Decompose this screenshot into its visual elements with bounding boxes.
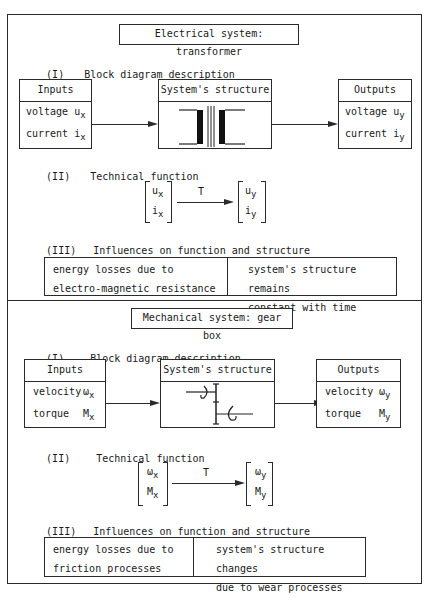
- flow-arrow: [275, 403, 315, 404]
- influence-cell: energy losses due tofriction processes: [45, 538, 193, 576]
- outputs-block: Outputs velocityωy torqueMy: [316, 359, 401, 428]
- transformer-icon: [159, 102, 271, 148]
- function-arrow: [172, 483, 236, 484]
- transfer-operator: T: [198, 186, 204, 197]
- section-title: Mechanical system: gear box: [131, 308, 293, 329]
- output-row: current iy: [339, 124, 411, 146]
- influences-table: energy losses due tofriction processes s…: [44, 537, 366, 577]
- arrowhead-icon: [148, 121, 158, 127]
- output-row: voltage uy: [339, 102, 411, 124]
- influence-cell: system's structure remainsconstant with …: [227, 258, 396, 295]
- right-bracket: [167, 181, 172, 223]
- function-arrow: [177, 202, 225, 203]
- right-bracket: [261, 181, 266, 223]
- gearbox-icon: [161, 382, 274, 427]
- flow-arrow: [106, 403, 150, 404]
- left-bracket: [138, 462, 143, 506]
- right-bracket: [268, 462, 273, 506]
- left-bracket: [238, 181, 243, 223]
- right-bracket: [163, 462, 168, 506]
- input-vector: ωx Mx: [147, 462, 158, 502]
- outputs-header: Outputs: [339, 80, 411, 102]
- output-vector: uy iy: [245, 181, 256, 221]
- input-row: velocityωx: [25, 382, 105, 404]
- structure-header: System's structure: [159, 80, 271, 102]
- output-row: velocityωy: [317, 382, 400, 404]
- inputs-block: Inputs velocityωx torqueMx: [24, 359, 106, 428]
- inputs-header: Inputs: [20, 80, 91, 102]
- outputs-block: Outputs voltage uy current iy: [338, 79, 412, 149]
- output-row: torqueMy: [317, 404, 400, 426]
- input-row: current ix: [20, 124, 91, 146]
- outputs-header: Outputs: [317, 360, 400, 382]
- influence-cell: energy losses due toelectro-magnetic res…: [45, 258, 227, 295]
- heading-technical-function: (II)Technical function: [22, 159, 199, 195]
- arrowhead-icon: [235, 480, 245, 486]
- heading-technical-function: (II)Technical function: [22, 441, 205, 477]
- influences-table: energy losses due toelectro-magnetic res…: [44, 257, 397, 296]
- input-row: torqueMx: [25, 404, 105, 426]
- flow-arrow: [92, 124, 148, 125]
- input-vector: ux ix: [152, 181, 163, 221]
- structure-block: System's structure: [160, 359, 275, 428]
- inputs-block: Inputs voltage ux current ix: [19, 79, 92, 149]
- output-vector: ωy My: [255, 462, 266, 502]
- input-row: voltage ux: [20, 102, 91, 124]
- section-title: Electrical system: transformer: [119, 24, 299, 45]
- arrowhead-icon: [224, 199, 234, 205]
- transfer-operator: T: [203, 467, 209, 478]
- influence-cell: system's structure changesdue to wear pr…: [193, 538, 365, 576]
- flow-arrow: [272, 124, 328, 125]
- left-bracket: [145, 181, 150, 223]
- arrowhead-icon: [328, 121, 338, 127]
- structure-block: System's structure: [158, 79, 272, 149]
- structure-header: System's structure: [161, 360, 274, 382]
- left-bracket: [246, 462, 251, 506]
- arrowhead-icon: [150, 400, 160, 406]
- inputs-header: Inputs: [25, 360, 105, 382]
